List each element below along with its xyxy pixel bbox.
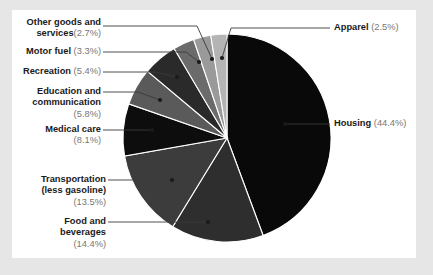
slice-percent-motor-fuel: (3.3%) xyxy=(74,46,101,56)
pie-slices-group xyxy=(123,34,331,242)
leader-dot-other-goods xyxy=(210,57,214,61)
slice-label-food-beverages: Food and beverages (14.4%) xyxy=(2,216,106,250)
slice-label-transportation-line1: Transportation xyxy=(41,174,106,184)
slice-label-recreation-category: Recreation xyxy=(23,66,71,76)
slice-percent-transportation: (13.5%) xyxy=(73,197,106,207)
leader-dot-housing xyxy=(283,122,287,126)
leader-dot-apparel xyxy=(220,56,224,60)
slice-label-education-line1: Education and xyxy=(37,86,101,96)
slice-label-other-goods-line1: Other goods and xyxy=(27,17,101,27)
leader-dot-medical-care xyxy=(150,128,154,132)
slice-label-transportation-line2: (less gasoline) xyxy=(41,185,106,195)
slice-label-recreation: Recreation (5.4%) xyxy=(2,66,101,77)
screenshot-root: Other goods and services(2.7%) Motor fue… xyxy=(0,0,433,275)
slice-percent-medical-care: (8.1%) xyxy=(74,135,101,145)
leader-dot-food-beverages xyxy=(206,220,210,224)
slice-label-apparel: Apparel (2.5%) xyxy=(334,22,432,33)
slice-percent-recreation: (5.4%) xyxy=(74,66,101,76)
slice-percent-housing: (44.4%) xyxy=(374,118,407,128)
leader-dot-education xyxy=(158,98,162,102)
slice-percent-apparel: (2.5%) xyxy=(371,22,398,32)
leader-dot-motor-fuel xyxy=(197,60,201,64)
slice-label-food-beverages-line2: beverages xyxy=(60,227,106,237)
slice-label-education: Education and communication (5.8%) xyxy=(2,86,101,120)
pie-chart-figure: Other goods and services(2.7%) Motor fue… xyxy=(0,0,433,275)
leader-dot-transportation xyxy=(170,178,174,182)
slice-label-motor-fuel: Motor fuel (3.3%) xyxy=(2,46,101,57)
slice-label-other-goods: Other goods and services(2.7%) xyxy=(2,17,101,40)
leader-dot-recreation xyxy=(175,75,179,79)
slice-label-food-beverages-line1: Food and xyxy=(64,216,106,226)
slice-label-housing-category: Housing xyxy=(334,118,371,128)
slice-label-other-goods-line2: services xyxy=(36,28,73,38)
slice-label-education-line2: communication xyxy=(32,97,101,107)
slice-label-transportation: Transportation (less gasoline) (13.5%) xyxy=(2,174,106,208)
slice-label-housing: Housing (44.4%) xyxy=(334,118,432,129)
slice-label-medical-care-category: Medical care xyxy=(45,124,101,134)
slice-label-apparel-category: Apparel xyxy=(334,22,369,32)
slice-percent-food-beverages: (14.4%) xyxy=(73,239,106,249)
slice-label-motor-fuel-category: Motor fuel xyxy=(26,46,71,56)
slice-percent-other-goods: (2.7%) xyxy=(74,28,101,38)
slice-percent-education: (5.8%) xyxy=(74,109,101,119)
slice-label-medical-care: Medical care (8.1%) xyxy=(2,124,101,147)
